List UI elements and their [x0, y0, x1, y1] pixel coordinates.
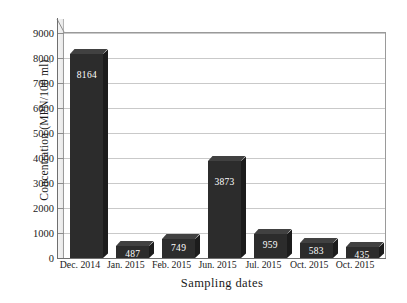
y-axis-tick-label: 2000 [33, 203, 54, 214]
bar-value-label: 3873 [208, 177, 241, 187]
bar[interactable]: 3873 [208, 161, 241, 258]
bar[interactable]: 435 [346, 247, 379, 258]
y-axis-tick-label: 8000 [33, 53, 54, 64]
y-axis-tick-mark [57, 233, 64, 234]
x-axis-tick-label: Jan. 2015 [103, 259, 149, 270]
y-axis-tick-label: 4000 [33, 153, 54, 164]
x-axis-tick-labels: Dec. 2014Jan. 2015Feb. 2015Jun. 2015Jul.… [57, 259, 387, 275]
y-axis-tick-mark [57, 33, 64, 34]
y-axis-line [57, 18, 58, 259]
y-axis-tick-mark [57, 158, 64, 159]
y-axis-tick-mark [57, 208, 64, 209]
bar-side-face [195, 235, 200, 258]
bar-side-face [103, 49, 108, 258]
x-axis-tick-label: Jul. 2015 [240, 259, 286, 270]
y-axis-tick-label: 3000 [33, 178, 54, 189]
bar[interactable]: 749 [162, 239, 195, 258]
x-axis-tick-label: Oct. 2015 [332, 259, 378, 270]
bar[interactable]: 959 [254, 234, 287, 258]
bar-side-face [241, 157, 246, 258]
bar-value-label: 583 [300, 246, 333, 256]
bar[interactable]: 8164 [70, 54, 103, 258]
x-axis-tick-label: Oct. 2015 [286, 259, 332, 270]
bar[interactable]: 583 [300, 243, 333, 258]
x-axis-tick-label: Dec. 2014 [57, 259, 103, 270]
bar-value-label: 959 [254, 240, 287, 250]
chart-figure: Concentration (MPN/100 ml) 0100020003000… [0, 0, 407, 303]
y-axis-tick-label: 6000 [33, 103, 54, 114]
bar-value-label: 749 [162, 243, 195, 253]
plot-area: 0100020003000400050006000700080009000 81… [63, 32, 386, 258]
bar[interactable]: 487 [116, 246, 149, 258]
bar-side-face [287, 230, 292, 258]
x-axis-tick-label: Jun. 2015 [195, 259, 241, 270]
y-axis-tick-mark [57, 108, 64, 109]
bar-front-face: 8164 [70, 54, 103, 258]
y-axis-tick-mark [57, 133, 64, 134]
y-axis-tick-label: 0 [49, 253, 54, 264]
x-axis-title: Sampling dates [57, 276, 387, 291]
bar-front-face: 487 [116, 246, 149, 258]
bar-front-face: 959 [254, 234, 287, 258]
bar-front-face: 3873 [208, 161, 241, 258]
bar-series: 81644877493873959583435 [64, 33, 385, 258]
y-axis-tick-label: 7000 [33, 78, 54, 89]
y-axis-tick-label: 9000 [33, 28, 54, 39]
y-axis-tick-mark [57, 183, 64, 184]
y-axis-tick-mark [57, 83, 64, 84]
y-axis-tick-label: 5000 [33, 128, 54, 139]
bar-front-face: 435 [346, 247, 379, 258]
bar-front-face: 583 [300, 243, 333, 258]
bar-value-label: 8164 [70, 70, 103, 80]
y-axis-tick-label: 1000 [33, 228, 54, 239]
x-axis-tick-label: Feb. 2015 [149, 259, 195, 270]
y-axis-tick-mark [57, 58, 64, 59]
bar-front-face: 749 [162, 239, 195, 258]
